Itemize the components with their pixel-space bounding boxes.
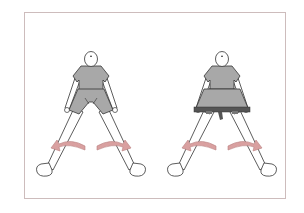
resistance-band <box>194 107 250 112</box>
figure-without-band <box>37 52 146 177</box>
exercise-illustration <box>0 0 304 213</box>
figure-with-band <box>168 52 277 177</box>
